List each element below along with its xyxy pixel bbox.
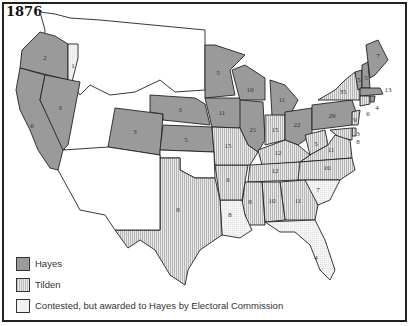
svg-text:4: 4 — [314, 254, 318, 262]
svg-text:9: 9 — [353, 116, 357, 124]
svg-text:11: 11 — [219, 109, 226, 117]
svg-text:10: 10 — [247, 86, 255, 94]
svg-text:29: 29 — [329, 112, 337, 120]
svg-text:3: 3 — [133, 128, 137, 136]
svg-text:22: 22 — [294, 121, 302, 129]
svg-text:11: 11 — [328, 146, 335, 154]
svg-text:5: 5 — [314, 140, 318, 148]
svg-text:4: 4 — [375, 104, 379, 112]
svg-text:3: 3 — [356, 130, 360, 138]
svg-text:21: 21 — [250, 126, 258, 134]
svg-text:6: 6 — [366, 110, 370, 118]
legend-item-contested: Contested, but awarded to Hayes by Elect… — [16, 296, 283, 315]
svg-text:5: 5 — [216, 69, 220, 77]
svg-text:5: 5 — [364, 74, 368, 82]
svg-text:15: 15 — [225, 142, 233, 150]
svg-text:6: 6 — [226, 176, 230, 184]
legend-item-tilden: Tilden — [16, 275, 283, 294]
svg-text:3: 3 — [58, 104, 62, 112]
svg-text:2: 2 — [43, 54, 47, 62]
legend-item-hayes: Hayes — [16, 254, 283, 273]
svg-text:10: 10 — [269, 197, 277, 205]
svg-text:7: 7 — [316, 186, 320, 194]
svg-text:7: 7 — [376, 52, 380, 60]
legend-label: Tilden — [35, 279, 61, 290]
svg-text:8: 8 — [356, 138, 360, 146]
legend-label: Hayes — [35, 258, 62, 269]
svg-text:3: 3 — [178, 106, 182, 114]
svg-text:35: 35 — [340, 88, 348, 96]
svg-text:11: 11 — [295, 197, 302, 205]
svg-text:6: 6 — [30, 122, 34, 130]
svg-text:12: 12 — [272, 167, 280, 175]
svg-text:12: 12 — [275, 149, 283, 157]
state-arkansas — [215, 165, 248, 200]
svg-text:10: 10 — [324, 164, 332, 172]
state-connecticut — [360, 96, 370, 106]
svg-text:13: 13 — [385, 86, 393, 94]
contested-swatch — [16, 299, 30, 313]
svg-text:8: 8 — [176, 206, 180, 214]
map-legend: Hayes Tilden Contested, but awarded to H… — [16, 254, 283, 317]
svg-text:8: 8 — [248, 198, 252, 206]
hayes-swatch — [16, 257, 30, 271]
svg-text:11: 11 — [279, 96, 286, 104]
legend-label: Contested, but awarded to Hayes by Elect… — [35, 300, 283, 311]
state-wisconsin — [232, 65, 265, 100]
southwest-territory — [58, 147, 160, 230]
svg-text:1: 1 — [71, 62, 75, 70]
tilden-swatch — [16, 278, 30, 292]
svg-text:8: 8 — [228, 211, 232, 219]
svg-text:15: 15 — [272, 126, 280, 134]
state-massachusetts — [360, 88, 383, 96]
svg-text:5: 5 — [184, 136, 188, 144]
svg-text:5: 5 — [357, 76, 361, 84]
state-rhode-island — [370, 96, 375, 102]
